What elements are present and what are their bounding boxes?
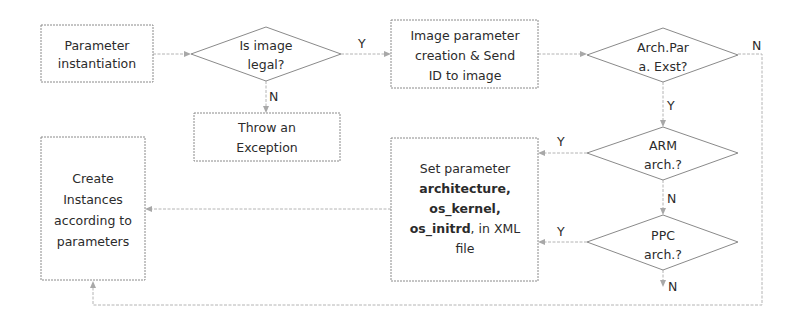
decision-diamond bbox=[191, 27, 341, 81]
node-text-line: architecture, bbox=[419, 181, 510, 196]
label-legal-no: N bbox=[269, 89, 278, 104]
node-set-parameter: Set parameter architecture, os_kernel, o… bbox=[391, 138, 538, 281]
flowchart-diagram: Y N N Y Y N Y N Parameter instantiation … bbox=[0, 0, 793, 318]
label-arm-yes: Y bbox=[556, 134, 565, 149]
decision-diamond bbox=[587, 127, 738, 180]
process-box bbox=[41, 25, 153, 82]
label-exist-no: N bbox=[752, 38, 761, 53]
node-create-instances: Create Instances according to parameters bbox=[41, 137, 145, 280]
node-text-line: arch.? bbox=[644, 247, 682, 262]
arrowhead-icon bbox=[90, 281, 96, 288]
node-text-line: os_initrd, in XML bbox=[410, 221, 521, 237]
node-ppc-arch: PPC arch.? bbox=[587, 215, 738, 270]
label-ppc-yes: Y bbox=[556, 224, 565, 239]
node-image-parameter-creation: Image parameter creation & Send ID to im… bbox=[391, 20, 538, 88]
node-text-line: Throw an bbox=[237, 120, 296, 135]
process-box bbox=[41, 137, 145, 280]
node-text-bold-span: os_initrd bbox=[410, 221, 471, 237]
node-is-image-legal: Is image legal? bbox=[191, 27, 341, 81]
node-text-line: Arch.Par bbox=[637, 40, 690, 55]
node-arm-arch: ARM arch.? bbox=[587, 127, 738, 180]
arrowhead-icon bbox=[263, 106, 269, 113]
label-exist-yes: Y bbox=[666, 98, 675, 113]
node-text-line: a. Exst? bbox=[639, 59, 688, 74]
arrowhead-icon bbox=[660, 280, 666, 287]
node-text-line: Image parameter bbox=[410, 28, 520, 43]
label-ppc-no: N bbox=[668, 279, 677, 294]
arrowhead-icon bbox=[538, 150, 545, 156]
node-parameter-instantiation: Parameter instantiation bbox=[41, 25, 153, 82]
node-text-line: Instances bbox=[63, 192, 123, 207]
node-text-line: arch.? bbox=[644, 157, 682, 172]
node-text-line: ARM bbox=[649, 138, 677, 153]
node-text-line: Set parameter bbox=[420, 161, 511, 176]
node-text-span: , in XML bbox=[471, 221, 521, 236]
label-legal-yes: Y bbox=[357, 36, 366, 51]
arrowhead-icon bbox=[384, 51, 391, 57]
node-text-line: os_kernel, bbox=[429, 201, 500, 217]
node-arch-param-exists: Arch.Par a. Exst? bbox=[587, 28, 738, 82]
arrowhead-icon bbox=[580, 51, 587, 57]
node-text-line: according to bbox=[54, 213, 132, 228]
arrowhead-icon bbox=[145, 206, 152, 212]
node-text-line: parameters bbox=[57, 234, 130, 249]
node-text-line: PPC bbox=[651, 228, 675, 243]
arrowhead-icon bbox=[660, 208, 666, 215]
node-text-line: legal? bbox=[248, 57, 285, 72]
node-text-line: Parameter bbox=[64, 38, 130, 53]
node-text-line: ID to image bbox=[429, 68, 502, 83]
node-throw-exception: Throw an Exception bbox=[194, 113, 340, 161]
arrowhead-icon bbox=[538, 239, 545, 245]
label-arm-no: N bbox=[667, 191, 676, 206]
node-text-line: Create bbox=[72, 171, 114, 186]
node-text-line: Is image bbox=[239, 38, 292, 53]
node-text-line: file bbox=[455, 241, 474, 256]
arrowhead-icon bbox=[660, 120, 666, 127]
node-text-line: creation & Send bbox=[415, 48, 515, 63]
node-text-line: instantiation bbox=[58, 56, 136, 71]
node-text-line: Exception bbox=[236, 140, 298, 155]
